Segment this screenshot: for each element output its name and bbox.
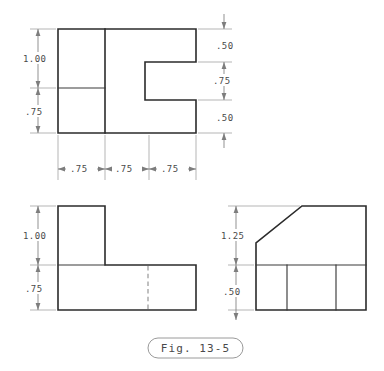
caption-label: Fig. 13-5 (161, 342, 231, 355)
arrow-side-left-50-down (234, 313, 239, 320)
dim-text-front-left-75: .75 (25, 284, 42, 294)
dim-text-side-left-50: .50 (223, 287, 240, 297)
dim-text-top-right-50-upper: .50 (216, 41, 233, 51)
arrow-top-left-75-down (36, 126, 41, 133)
side-view: 1.25 .50 (220, 206, 366, 320)
arrow-bottom-75-1-right (98, 167, 105, 172)
front-view-left-dimensions: 1.00 .75 (22, 206, 56, 310)
front-view: 1.00 .75 (22, 206, 196, 310)
arrow-bottom-75-3-right (189, 167, 196, 172)
side-view-outline (256, 206, 366, 310)
front-view-outline (58, 206, 196, 310)
dim-text-bottom-75-3: .75 (161, 164, 178, 174)
top-view: 1.00 .75 .50 (22, 14, 238, 180)
dim-text-bottom-75-1: .75 (70, 164, 87, 174)
arrow-side-left-50-up (234, 265, 239, 272)
figure-caption: Fig. 13-5 (148, 338, 243, 358)
arrow-front-left-100-up (36, 206, 41, 213)
arrow-bottom-75-1-left (58, 167, 65, 172)
technical-drawing-figure: 1.00 .75 .50 (0, 0, 384, 371)
dim-text-top-right-50-lower: .50 (216, 113, 233, 123)
dim-text-front-left-100: 1.00 (23, 231, 46, 241)
dim-text-top-right-75: .75 (213, 76, 230, 86)
arrow-side-left-125-down (234, 258, 239, 265)
side-view-left-dimensions: 1.25 .50 (220, 206, 300, 320)
top-view-right-dimensions: .50 .75 .50 (198, 14, 238, 148)
top-view-left-dimensions: 1.00 .75 (22, 29, 56, 133)
arrow-top-right-50-lower (222, 133, 227, 140)
arrow-top-right-75-down (222, 93, 227, 100)
dim-text-top-left-75: .75 (25, 107, 42, 117)
arrow-bottom-75-3-left (149, 167, 156, 172)
arrow-top-right-50-upper (222, 22, 227, 29)
dim-text-side-left-125: 1.25 (221, 231, 244, 241)
arrow-side-left-125-up (234, 206, 239, 213)
dim-text-top-left-100: 1.00 (23, 54, 46, 64)
dim-text-bottom-75-2: .75 (115, 164, 132, 174)
arrow-front-left-75-up (36, 265, 41, 272)
arrow-bottom-75-2-left (105, 167, 112, 172)
top-view-bottom-dimensions: .75 .75 .75 (58, 135, 196, 180)
top-view-outline (58, 29, 196, 133)
arrow-front-left-100-down (36, 258, 41, 265)
arrow-top-left-100-up (36, 29, 41, 36)
arrow-top-left-100-down (36, 81, 41, 88)
arrow-top-left-75-up (36, 88, 41, 95)
arrow-top-right-75-up (222, 62, 227, 69)
drawing-canvas: 1.00 .75 .50 (0, 0, 384, 371)
arrow-front-left-75-down (36, 303, 41, 310)
arrow-bottom-75-2-right (142, 167, 149, 172)
